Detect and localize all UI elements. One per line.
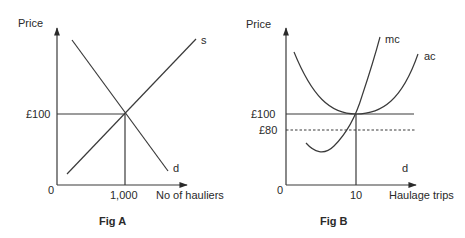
fig-a-origin-label: 0 — [48, 184, 54, 196]
fig-b-x-axis-label: Haulage trips — [389, 189, 454, 201]
fig-b-demand-label: d — [402, 162, 408, 174]
fig-a-demand-label: d — [173, 162, 179, 174]
fig-b-quantity-tick: 10 — [350, 189, 362, 201]
fig-a-caption: Fig A — [99, 215, 126, 227]
fig-a-price-tick: £100 — [26, 108, 50, 120]
fig-b-ac-curve — [294, 52, 418, 114]
fig-a-quantity-tick: 1,000 — [110, 189, 138, 201]
fig-a-y-axis-label: Price — [18, 17, 43, 29]
fig-b-caption: Fig B — [320, 215, 348, 227]
fig-b-origin-label: 0 — [277, 184, 283, 196]
fig-a-demand-curve — [72, 40, 168, 171]
figure-b: Price 0 ac mc d £100 £80 10 Haulage trip… — [246, 18, 454, 227]
fig-a-x-axis-label: No of hauliers — [156, 189, 224, 201]
figure-a: Price 0 s d £100 1,000 No of hauliers Fi… — [18, 17, 224, 227]
fig-b-y-axis-label: Price — [246, 18, 271, 30]
diagram-canvas: Price 0 s d £100 1,000 No of hauliers Fi… — [0, 0, 465, 238]
fig-b-ac-label: ac — [424, 50, 436, 62]
fig-b-mc-label: mc — [385, 33, 400, 45]
fig-a-supply-label: s — [201, 34, 207, 46]
fig-b-price-80-tick: £80 — [259, 124, 277, 136]
fig-b-price-100-tick: £100 — [251, 108, 275, 120]
